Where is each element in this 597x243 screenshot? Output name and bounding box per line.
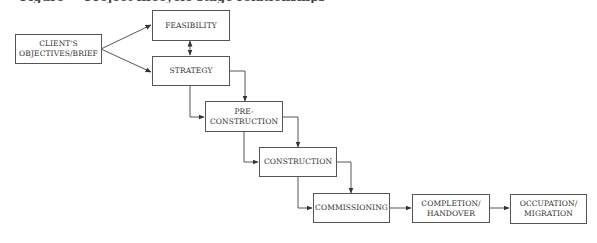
node-label: CLIENT'S — [19, 39, 98, 49]
node-label: FEASIBILITY — [165, 21, 217, 31]
node-label: CONSTRUCTION — [264, 157, 332, 167]
node-client-objectives: CLIENT'S OBJECTIVES/BRIEF — [15, 34, 102, 64]
node-label: HANDOVER — [421, 209, 480, 219]
node-label: OBJECTIVES/BRIEF — [19, 49, 98, 59]
node-label: CONSTRUCTION — [210, 117, 278, 127]
node-strategy: STRATEGY — [152, 56, 230, 86]
node-completion-handover: COMPLETION/ HANDOVER — [412, 194, 490, 223]
node-label: PRE- — [210, 107, 278, 117]
node-label: STRATEGY — [170, 66, 213, 76]
arrow-client-feasibility — [101, 25, 151, 49]
node-label: MIGRATION — [520, 209, 578, 219]
node-feasibility: FEASIBILITY — [152, 10, 230, 41]
node-construction: CONSTRUCTION — [259, 147, 337, 177]
node-occupation-migration: OCCUPATION/ MIGRATION — [510, 194, 587, 224]
node-label: COMPLETION/ — [421, 199, 480, 209]
node-commissioning: COMMISSIONING — [313, 193, 390, 223]
node-pre-construction: PRE- CONSTRUCTION — [205, 101, 283, 132]
node-label: OCCUPATION/ — [520, 199, 578, 209]
arrow-client-strategy — [101, 49, 151, 72]
node-label: COMMISSIONING — [315, 203, 388, 213]
